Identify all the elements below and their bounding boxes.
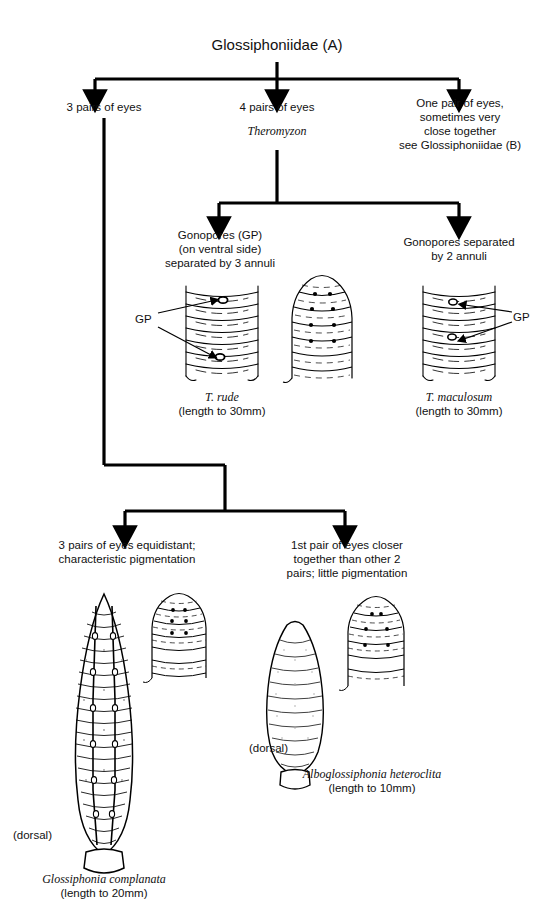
theromyzon-left-caption: Gonopores (GP) (on ventral side) separat…	[150, 228, 290, 270]
species-t-maculosum: T. maculosum	[389, 390, 529, 405]
genus-theromyzon: Theromyzon	[222, 124, 332, 139]
glossiphonia-eyes-three-pairs	[170, 608, 188, 635]
posterior-sucker	[84, 849, 124, 873]
gp-label-left: GP	[135, 313, 152, 326]
gonopore-upper-t-rude	[218, 297, 227, 303]
gonopore-lower-t-rude	[215, 354, 224, 360]
glossiphonia-right-caption: 1st pair of eyes closer together than ot…	[272, 538, 422, 580]
key-diagram-page: Glossiphoniidae (A) 3 pairs of eyes 4 pa…	[0, 0, 554, 920]
theromyzon-eyes-four-pairs	[309, 292, 336, 343]
alboglossiphonia-eyes-three-pairs	[363, 612, 390, 647]
theromyzon-right-caption: Gonopores separated by 2 annuli	[388, 235, 530, 263]
species-t-rude: T. rude	[152, 390, 292, 405]
gonopore-upper-t-maculosum	[449, 299, 457, 305]
branch-label-left: 3 pairs of eyes	[34, 100, 174, 114]
species-glossiphonia-complanata: Glossiphonia complanata	[24, 872, 184, 887]
gp-label-right: GP	[513, 311, 530, 324]
species-alboglossiphonia-heteroclita: Alboglossiphonia heteroclita	[272, 767, 472, 782]
glossiphonia-left-caption: 3 pairs of eyes equidistant; characteris…	[47, 538, 207, 566]
alboglossiphonia-view-label: (dorsal)	[249, 742, 288, 755]
species-t-rude-length: (length to 30mm)	[152, 404, 292, 418]
species-glossiphonia-length: (length to 20mm)	[24, 886, 184, 900]
dorsal-papillae	[90, 633, 117, 818]
branch-label-middle: 4 pairs of eyes	[217, 100, 337, 114]
gonopore-lower-t-maculosum	[448, 334, 456, 340]
page-title: Glossiphoniidae (A)	[152, 36, 402, 54]
light-pigment-speckles	[275, 649, 315, 739]
pigment-speckles	[83, 649, 125, 781]
branch-label-right: One pair of eyes, sometimes very close t…	[372, 96, 548, 152]
species-t-maculosum-length: (length to 30mm)	[389, 404, 529, 418]
species-alboglossiphonia-length: (length to 10mm)	[272, 781, 472, 795]
glossiphonia-view-label: (dorsal)	[13, 829, 52, 842]
